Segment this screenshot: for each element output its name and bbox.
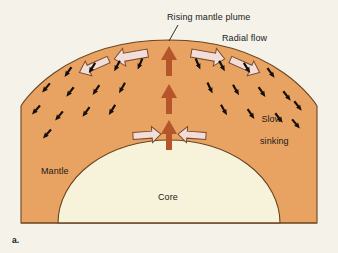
label-mantle: Mantle: [41, 166, 69, 177]
label-slow-sinking: Slow sinking: [251, 103, 289, 169]
plume-leader-line: [169, 25, 178, 41]
label-radial-flow: Radial flow: [222, 33, 267, 44]
label-core: Core: [158, 192, 178, 203]
label-slow-sinking-line2: sinking: [251, 136, 289, 147]
mantle-convection-figure: Rising mantle plume Radial flow Slow sin…: [0, 0, 338, 253]
figure-panel-label: a.: [12, 235, 19, 246]
label-slow-sinking-line1: Slow: [261, 114, 281, 124]
label-rising-mantle-plume: Rising mantle plume: [167, 12, 250, 23]
